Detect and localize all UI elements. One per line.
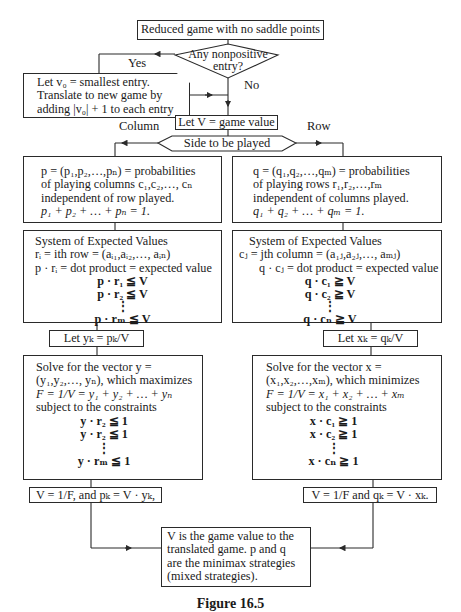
- row-result-box: V = 1/F and qₖ = V · xₖ.: [303, 487, 437, 503]
- let-v-box: Let V = game value: [175, 115, 278, 130]
- row-let-x-box: Let xₖ = qₖ/V: [323, 330, 418, 347]
- final-result-box: V is the game value to the translated ga…: [161, 527, 311, 587]
- figure-caption: Figure 16.5: [0, 596, 461, 612]
- column-let-y-box: Let yₖ = pₖ/V: [49, 330, 144, 347]
- column-expected-values-box: System of Expected Values rᵢ = ith row =…: [23, 230, 222, 323]
- yes-label: Yes: [128, 56, 146, 71]
- row-probability-box: q = (q₁,q₂,…,qₘ) = probabilities of play…: [232, 156, 442, 223]
- start-box: Reduced game with no saddle points: [137, 20, 324, 40]
- decision-text: Any nonpositive entry?: [178, 48, 278, 72]
- translate-box: Let v₀ = smallest entry. Translate to ne…: [23, 73, 190, 118]
- column-label: Column: [119, 119, 159, 134]
- row-solve-box: Solve for the vector x = (x₁,x₂,…,xₘ), w…: [252, 355, 442, 480]
- column-probability-box: p = (p₁,p₂,…,pₙ) = probabilities of play…: [23, 156, 222, 223]
- column-solve-box: Solve for the vector y = (y₁,y₂,…, yₙ), …: [23, 355, 203, 480]
- row-label: Row: [307, 119, 331, 134]
- row-expected-values-box: System of Expected Values cⱼ = jth colum…: [232, 230, 442, 323]
- column-result-box: V = 1/F, and pₖ = V · yₖ,: [29, 487, 162, 503]
- no-label: No: [244, 78, 259, 93]
- side-decision-text: Side to be played: [172, 136, 282, 151]
